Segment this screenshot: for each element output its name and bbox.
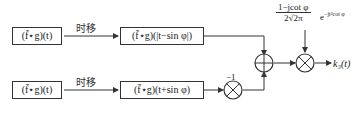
bottom-shift-label: 时移 <box>76 74 96 89</box>
top-shift-label: 时移 <box>76 20 96 35</box>
top-shifted-block: (f̄⋆g)(|t−sin φ|) <box>120 27 204 45</box>
gain-label: −1 <box>226 72 236 82</box>
gain-multiplier-icon <box>224 81 242 99</box>
coefficient-denominator: 2√2π <box>276 13 311 23</box>
adder-icon <box>255 54 273 72</box>
multiplier-icon <box>296 54 314 72</box>
top-input-block: (f̄⋆g)(t) <box>12 27 62 45</box>
coefficient-exponential: e−jt²cot φ <box>320 11 345 22</box>
coefficient-fraction: 1−jcot φ 2√2π <box>276 2 311 23</box>
output-label: k₃(t) <box>333 58 350 69</box>
bottom-shifted-block: (f̄⋆g)(t+sin φ) <box>120 81 204 99</box>
coefficient-numerator: 1−jcot φ <box>276 2 311 13</box>
exp-exponent: −jt²cot φ <box>324 11 345 17</box>
bottom-input-block: (f̄⋆g)(t) <box>12 81 62 99</box>
